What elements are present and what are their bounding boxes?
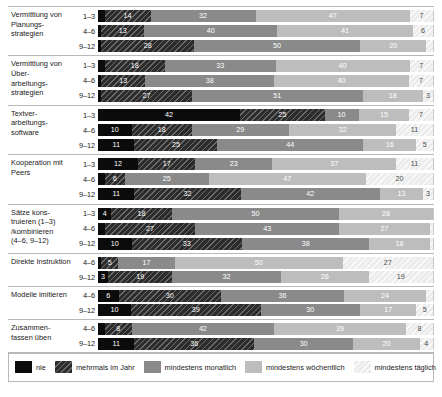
chart-group: Zusammen-fassen üben4–628423989–12113630…: [8, 320, 434, 353]
bar-segment: 36: [221, 290, 344, 302]
grade-label: 1–3: [74, 61, 98, 70]
bar-segment: 28: [101, 40, 194, 52]
legend-swatch: [245, 361, 262, 373]
bar-segment: 20: [353, 338, 419, 350]
grade-label: 4–6: [74, 27, 98, 36]
chart-plot-area: Vermittlung von Planungs-strategien1–321…: [8, 6, 434, 354]
bar-segment: 42: [98, 109, 240, 121]
bar-segment: [430, 223, 433, 235]
bar-segment: 15: [359, 109, 410, 121]
group-rows: 4–628423989–12113630204: [74, 320, 434, 353]
grade-label: 1–3: [74, 111, 98, 120]
stacked-bar: 319322619: [98, 271, 434, 283]
bar-segment: 42: [241, 188, 380, 200]
chart-row: 1–31217233711: [74, 158, 434, 171]
grade-label: 4–6: [74, 175, 98, 184]
bar-segment: 23: [195, 158, 272, 170]
chart-legend: niemehrmals im Jahrmindestens monatlichm…: [8, 352, 434, 382]
chart-row: 9–1210333818: [74, 237, 434, 250]
bar-segment: 30: [254, 338, 354, 350]
bar-segment: 3: [98, 271, 108, 283]
bar-segment: 40: [144, 25, 277, 37]
stacked-bar-chart: Vermittlung von Planungs-strategien1–321…: [0, 0, 442, 397]
bar-segment: 10: [325, 109, 359, 121]
bar-segment: 8: [105, 323, 132, 335]
bar-segment: 16: [363, 139, 416, 151]
bar-segment: 3: [423, 90, 433, 102]
bar-segment: 11: [396, 158, 433, 170]
grade-label: 4–6: [74, 291, 98, 300]
legend-label: mindestens wöchentlich: [266, 363, 344, 372]
chart-group: Vermittlung von Planungs-strategien1–321…: [8, 7, 434, 56]
group-rows: 1–341850284–622743279–1210333818: [74, 205, 434, 253]
chart-group: Sätze kons-truieren (1–3)/kombinieren(4–…: [8, 205, 434, 254]
bar-segment: 24: [344, 290, 426, 302]
bar-segment: 5: [416, 139, 433, 151]
bar-segment: 2: [98, 173, 105, 185]
stacked-bar: 113630204: [98, 338, 434, 350]
bar-segment: 11: [98, 139, 134, 151]
group-label: Zusammen-fassen üben: [8, 320, 74, 353]
stacked-bar: 1338407: [98, 75, 434, 87]
bar-segment: 50: [172, 208, 340, 220]
group-label: Vermittlung von Über-arbeitungs-strategi…: [8, 56, 74, 104]
bar-segment: 11: [98, 338, 134, 350]
bar-segment: 38: [242, 238, 369, 250]
bar-segment: 20: [366, 173, 433, 185]
chart-group: Textver-arbeitungs-software1–34225101574…: [8, 106, 434, 155]
chart-row: 9–12103930175: [74, 304, 434, 316]
bar-segment: 41: [277, 25, 413, 37]
legend-item: mindestens monatlich: [144, 361, 236, 373]
bar-segment: 50: [194, 40, 360, 52]
stacked-bar: 2850202: [98, 40, 434, 52]
group-rows: 1–34225101574–610182932119–12112544165: [74, 106, 434, 154]
chart-row: 4–62274327: [74, 222, 434, 235]
group-label: Textver-arbeitungs-software: [8, 106, 74, 154]
grade-label: 9–12: [74, 91, 98, 100]
bar-segment: 18: [132, 124, 192, 136]
chart-row: 9–12113630204: [74, 337, 434, 350]
stacked-bar: 63036242: [98, 290, 434, 302]
bar-segment: 4: [420, 338, 433, 350]
bar-segment: 27: [101, 90, 191, 102]
bar-segment: 26: [281, 271, 369, 283]
bar-segment: 4: [98, 208, 111, 220]
legend-swatch: [354, 361, 371, 373]
legend-item: mindestens täglich: [354, 361, 436, 373]
bar-segment: 17: [360, 304, 416, 316]
bar-segment: 2: [426, 290, 433, 302]
bar-segment: 14: [105, 10, 151, 22]
group-rows: 1–3214324774–613404169–122850202: [74, 7, 434, 55]
stacked-bar: 10333818: [98, 238, 434, 250]
bar-segment: 40: [274, 75, 409, 87]
grade-label: 9–12: [74, 239, 98, 248]
chart-group: Vermittlung von Über-arbeitungs-strategi…: [8, 56, 434, 105]
bar-segment: 51: [192, 90, 363, 102]
grade-label: 1–3: [74, 12, 98, 21]
chart-row: 4–61018293211: [74, 124, 434, 137]
grade-label: 9–12: [74, 42, 98, 51]
bar-segment: 37: [272, 158, 396, 170]
group-rows: 4–651750279–12319322619: [74, 254, 434, 286]
bar-segment: 7: [409, 75, 433, 87]
bar-segment: 10: [98, 304, 131, 316]
chart-group: Direkte Instruktion4–651750279–123193226…: [8, 254, 434, 287]
grade-label: 4–6: [74, 224, 98, 233]
bar-segment: 42: [132, 323, 274, 335]
legend-swatch: [15, 361, 32, 373]
bar-segment: 13: [101, 75, 145, 87]
bar-segment: 28: [339, 208, 433, 220]
chart-row: 1–3422510157: [74, 109, 434, 122]
bar-segment: 33: [165, 60, 276, 72]
bar-segment: 13: [380, 188, 423, 200]
bar-segment: 7: [410, 60, 433, 72]
bar-segment: 47: [209, 173, 366, 185]
bar-segment: 43: [195, 223, 339, 235]
group-label: Direkte Instruktion: [8, 254, 74, 286]
legend-label: mindestens täglich: [375, 363, 436, 372]
bar-segment: 30: [119, 290, 222, 302]
bar-segment: 40: [276, 60, 410, 72]
bar-segment: 17: [138, 158, 195, 170]
bar-segment: 2: [98, 323, 105, 335]
grade-label: 1–3: [74, 160, 98, 169]
